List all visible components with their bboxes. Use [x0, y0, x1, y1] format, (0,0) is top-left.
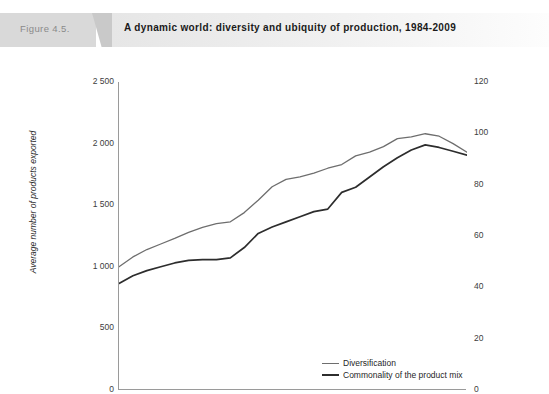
figure-header-banner: Figure 4.5. A dynamic world: diversity a…	[0, 13, 549, 47]
y-tick-right: 0	[474, 384, 500, 394]
figure-title: A dynamic world: diversity and ubiquity …	[124, 22, 456, 33]
legend-label: Commonality of the product mix	[343, 369, 463, 381]
legend-item[interactable]: Commonality of the product mix	[322, 369, 463, 381]
chart-container: Average number of products exported Aver…	[0, 47, 549, 394]
y-tick-left: 500	[68, 322, 114, 332]
y-tick-left: 2 500	[68, 76, 114, 86]
y-axis-right-ticks: 120100806040200	[474, 82, 504, 390]
y-tick-left: 0	[68, 384, 114, 394]
series-line-1	[119, 145, 467, 284]
y-tick-left: 1 500	[68, 199, 114, 209]
legend-swatch-line-icon	[322, 374, 339, 376]
y-tick-left: 2 000	[68, 138, 114, 148]
y-tick-right: 100	[474, 127, 500, 137]
y-tick-right: 20	[474, 333, 500, 343]
y-axis-left-title: Average number of products exported	[28, 117, 38, 287]
plot-frame	[118, 82, 466, 390]
series-line-0	[119, 134, 467, 267]
y-axis-left-ticks: 2 5002 0001 5001 0005000	[62, 82, 114, 390]
y-tick-right: 40	[474, 281, 500, 291]
figure-number: Figure 4.5.	[20, 23, 70, 34]
y-tick-left: 1 000	[68, 261, 114, 271]
y-tick-right: 120	[474, 76, 500, 86]
legend-swatch-line-icon	[322, 363, 339, 364]
legend-item[interactable]: Diversification	[322, 357, 463, 369]
y-tick-right: 80	[474, 179, 500, 189]
plot-lines	[119, 82, 467, 390]
y-tick-right: 60	[474, 230, 500, 240]
chart-legend: DiversificationCommonality of the produc…	[322, 357, 463, 381]
legend-label: Diversification	[343, 357, 396, 369]
